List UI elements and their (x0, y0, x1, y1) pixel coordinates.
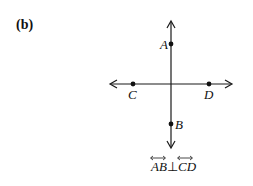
point-d (207, 82, 212, 87)
caption-line-ab: AB (150, 159, 167, 174)
perpendicular-lines-diagram: A B C D AB ⊥ CD (0, 0, 253, 186)
point-b (169, 122, 174, 127)
point-c (131, 82, 136, 87)
caption-line-cd: CD (178, 159, 197, 174)
point-b-label: B (175, 117, 183, 132)
point-a (169, 42, 174, 47)
point-a-label: A (159, 37, 168, 52)
perpendicular-symbol-icon: ⊥ (167, 159, 178, 174)
point-c-label: C (128, 87, 137, 102)
point-d-label: D (203, 87, 214, 102)
